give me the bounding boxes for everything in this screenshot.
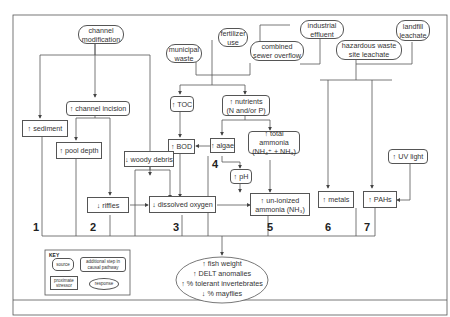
source-hazardous-waste: hazardous waste site leachate [336,40,402,60]
key-response: response [89,278,119,290]
key-proximate-stressor: proximate stressor [50,276,78,290]
response-fish-weight: ↑ fish weight [176,259,268,269]
key-source: source [52,258,74,271]
source-industrial-effluent: industrial effluent [300,20,344,39]
step-uv-light: ↑ UV light [388,149,428,164]
source-combined-sewer-overflow: combined sewer overflow [250,41,304,61]
step-toc: ↑ TOC [170,96,194,112]
source-municipal-waste: municipal waste [166,44,202,63]
pathway-number-6: 6 [325,221,331,233]
pathway-number-5: 5 [267,221,273,233]
stressor-dissolved-oxygen: ↓ dissolved oxygen [149,196,216,213]
pathway-number-1: 1 [33,221,39,233]
step-total-ammonia: ↑ total ammonia (NH₄⁺ + NH₃) [248,131,300,154]
response-delt-anomalies: ↑ DELT anomalies [176,269,268,279]
stressor-pool-depth: ↑ pool depth [56,142,102,159]
source-landfill-leachate: landfill leachate [396,20,430,41]
stressor-woody-debris: ↓ woody debris [124,151,174,167]
step-algae: ↑ algae [210,138,235,153]
key-additional-step: additional step in causal pathway [80,257,126,272]
stressor-metals: ↑ metals [318,191,354,208]
response-mayflies: ↓ % mayflies [176,289,268,299]
source-fertilizer-use: fertilizer use [218,28,248,47]
pathway-number-7: 7 [364,221,370,233]
response-tolerant-invertebrates: ↑ % tolerant invertebrates [176,279,268,289]
step-nutrients: ↑ nutrients (N and/or P) [222,95,270,116]
stressor-sediment: ↑ sediment [22,120,68,137]
stressor-pahs: ↑ PAHs [363,191,397,208]
step-channel-incision: ↑ channel incision [66,101,130,116]
source-channel-modification: channel modification [78,25,124,44]
pathway-number-3: 3 [173,221,179,233]
responses: ↑ fish weight ↑ DELT anomalies ↑ % toler… [176,259,268,299]
pathway-number-4: 4 [212,158,218,170]
step-ph: ↑ pH [230,169,252,184]
stressor-unionized-ammonia: ↑ un-ionized ammonia (NH₃) [250,193,310,216]
stressor-riffles: ↓ riffles [87,197,129,213]
pathway-number-2: 2 [90,221,96,233]
